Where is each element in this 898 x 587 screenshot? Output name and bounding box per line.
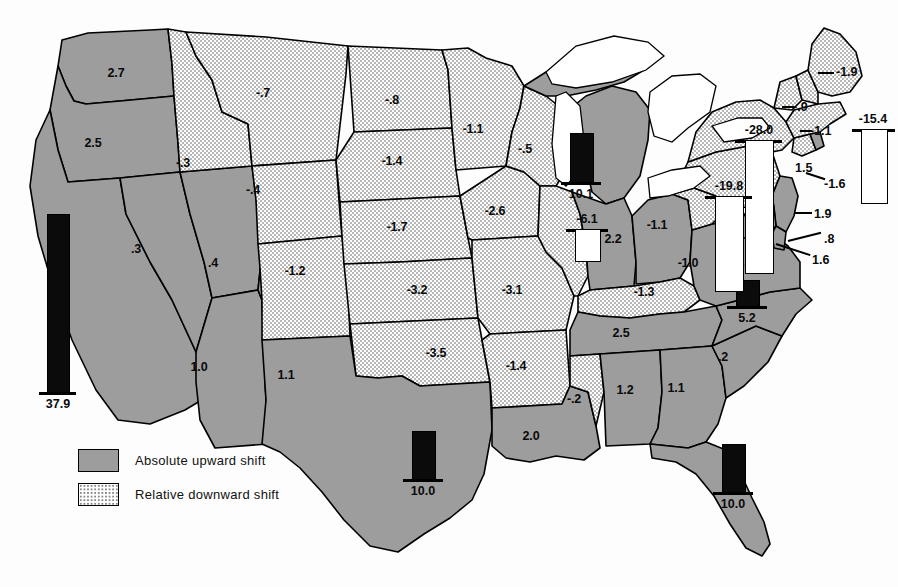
state-value-utah: .4 (208, 257, 218, 270)
new-york-bar-value: -28.0 (745, 124, 774, 137)
new-hampshire-label: -1.1 (810, 125, 832, 138)
state-value-ohio: -1.1 (647, 219, 668, 232)
state-value-oregon: 2.5 (85, 137, 102, 150)
california-bar (47, 214, 70, 394)
north-carolina-bar-base (727, 306, 767, 309)
state-value-west-virginia: -1.0 (678, 257, 699, 270)
state-value-montana: -.7 (256, 87, 270, 100)
michigan-bar-value: 10.1 (569, 188, 593, 201)
legend-label-downward: Relative downward shift (135, 487, 279, 502)
vermont-label: -.9 (793, 101, 808, 114)
maine-leader (818, 72, 834, 74)
state-value-georgia: 1.1 (668, 382, 685, 395)
state-value-nebraska: -1.7 (387, 221, 408, 234)
pennsylvania-bar-value: -19.8 (715, 180, 744, 193)
texas-bar-base (403, 479, 443, 482)
state-value-kansas: -3.2 (407, 284, 428, 297)
legend-swatch-downward (78, 483, 119, 506)
state-north-dakota (348, 46, 452, 132)
state-georgia (650, 346, 726, 448)
state-value-louisiana: 2.0 (523, 430, 540, 443)
state-value-north-dakota: -.8 (385, 94, 399, 107)
state-colorado (258, 236, 350, 340)
state-alabama (600, 350, 662, 446)
michigan-bar (570, 133, 594, 184)
map-infographic: 2.7 2.5 .3 -.3 -.7 -.4 .4 1.0 1.1 -1.2 -… (0, 0, 898, 587)
state-value-wyoming: -.4 (246, 184, 260, 197)
state-value-south-carolina: .2 (718, 351, 728, 364)
legend-label-upward: Absolute upward shift (135, 453, 266, 468)
state-florida (650, 442, 770, 556)
legend-row-upward: Absolute upward shift (78, 449, 279, 472)
pennsylvania-bar (715, 196, 744, 292)
state-value-mississippi: -.2 (567, 393, 581, 406)
state-value-alabama: 1.2 (617, 384, 634, 397)
lake-superior (546, 36, 664, 88)
state-value-arizona: 1.0 (191, 361, 208, 374)
illinois-bar (575, 229, 601, 262)
state-value-iowa: -2.6 (485, 205, 506, 218)
legend-swatch-upward (78, 449, 119, 472)
state-oklahoma (350, 318, 490, 386)
florida-bar-base (713, 492, 753, 495)
state-maine (808, 28, 862, 96)
state-value-kentucky: -1.3 (634, 286, 655, 299)
state-ohio (632, 194, 692, 284)
state-wyoming (252, 160, 342, 244)
legend: Absolute upward shift Relative downward … (78, 449, 279, 517)
texas-bar (412, 431, 436, 481)
massachusetts-bar-value: -15.4 (859, 113, 888, 126)
legend-row-downward: Relative downward shift (78, 483, 279, 506)
new-york-bar (745, 140, 774, 274)
connecticut-label: -1.6 (824, 178, 846, 191)
state-value-oklahoma: -3.5 (426, 347, 447, 360)
state-value-missouri: -3.1 (502, 284, 523, 297)
state-value-arkansas: -1.4 (506, 360, 527, 373)
state-value-washington: 2.7 (108, 67, 125, 80)
texas-bar-value: 10.0 (411, 485, 435, 498)
maine-label: -1.9 (836, 66, 858, 79)
state-value-new-mexico: 1.1 (278, 369, 295, 382)
maryland-label: 1.6 (812, 254, 829, 267)
michigan-bar-base (561, 182, 601, 185)
florida-bar (722, 444, 746, 494)
florida-bar-value: 10.0 (721, 498, 745, 511)
state-value-tennessee: 2.5 (613, 327, 630, 340)
state-value-indiana: 2.2 (605, 233, 622, 246)
north-carolina-bar-value: 5.2 (738, 312, 755, 325)
massachusetts-bar (861, 129, 888, 204)
state-value-idaho: -.3 (176, 157, 190, 170)
california-bar-value: 37.9 (46, 398, 70, 411)
delaware-label: .8 (824, 233, 834, 246)
state-value-nevada: .3 (131, 243, 141, 256)
california-bar-base (39, 392, 76, 395)
state-value-minnesota: -1.1 (463, 123, 484, 136)
new-jersey-label: 1.9 (814, 208, 831, 221)
new-jersey-leader (794, 212, 812, 214)
state-value-south-dakota: -1.4 (382, 155, 403, 168)
state-value-wisconsin: -.5 (518, 143, 532, 156)
illinois-bar-value: -6.1 (576, 213, 598, 226)
state-value-colorado: -1.2 (285, 265, 306, 278)
